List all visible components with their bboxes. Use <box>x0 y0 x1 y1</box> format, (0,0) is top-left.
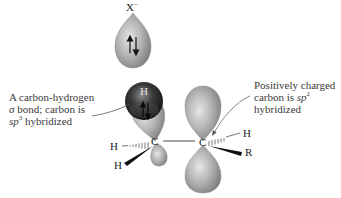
left-carbon-label: C <box>151 136 158 147</box>
annotation-right-line1: Positively charged <box>254 79 335 91</box>
wedge-bond-left <box>124 146 153 166</box>
nucleophile-lobe <box>115 13 151 68</box>
annotation-left-line3: sp3 hybridized <box>9 115 94 127</box>
sp3-back-lobe <box>151 144 167 166</box>
annotation-right: Positively charged carbon is sp2 hybridi… <box>254 79 335 115</box>
nucleophile-label: X− <box>126 2 138 13</box>
left-h-dashed-label: H <box>110 141 118 152</box>
annotation-right-line3: hybridized <box>254 103 335 115</box>
right-carbon-label: C <box>199 137 206 148</box>
annotation-right-line2: carbon is sp2 <box>254 91 335 103</box>
right-r-wedge-label: R <box>245 147 252 158</box>
right-h-dashed-label: H <box>243 128 251 139</box>
left-h-wedge-label: H <box>114 160 122 171</box>
arrowhead-icon <box>212 130 217 136</box>
hashed-bond-right <box>209 133 240 146</box>
hashed-bond-left <box>122 142 148 150</box>
leader-line-left <box>92 104 130 116</box>
annotation-left-line1: A carbon-hydrogen <box>9 91 94 103</box>
hydrogen-sphere-label: H <box>140 86 148 97</box>
annotation-left: A carbon-hydrogen σ bond; carbon is sp3 … <box>9 91 94 127</box>
p-orbital-lower-lobe <box>185 145 221 193</box>
wedge-bond-right <box>209 146 242 156</box>
